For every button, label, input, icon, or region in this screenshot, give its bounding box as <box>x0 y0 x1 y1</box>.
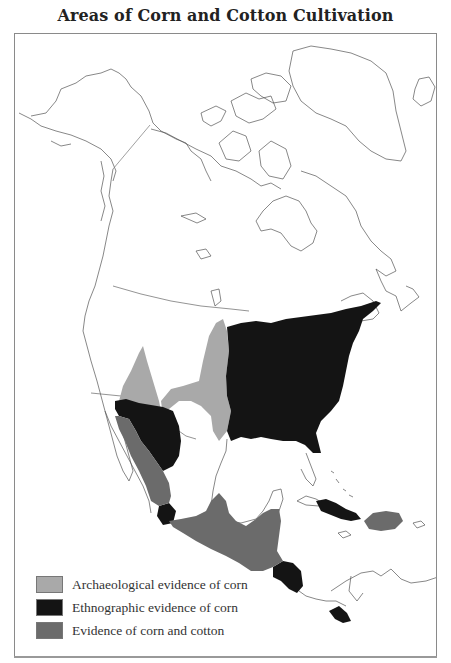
legend-item-archaeological: Archaeological evidence of corn <box>36 573 248 596</box>
legend: Archaeological evidence of corn Ethnogra… <box>36 573 248 642</box>
map-title: Areas of Corn and Cotton Cultivation <box>0 6 451 25</box>
map-frame <box>14 33 437 658</box>
swatch-archaeological <box>36 576 63 593</box>
swatch-ethnographic <box>36 599 63 616</box>
legend-label-corn-and-cotton: Evidence of corn and cotton <box>72 623 224 639</box>
north-america-map <box>15 34 437 658</box>
legend-label-ethnographic: Ethnographic evidence of corn <box>72 600 238 616</box>
bottom-rule <box>14 656 437 658</box>
legend-item-corn-and-cotton: Evidence of corn and cotton <box>36 619 248 642</box>
swatch-corn-and-cotton <box>36 622 63 639</box>
legend-label-archaeological: Archaeological evidence of corn <box>72 577 248 593</box>
legend-item-ethnographic: Ethnographic evidence of corn <box>36 596 248 619</box>
